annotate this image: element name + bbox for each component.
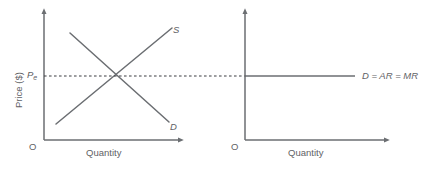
market-origin-label: O <box>29 142 36 152</box>
market-y-axis-label: Price ($) <box>14 72 24 108</box>
economics-diagram: Price ($) Pe S D O Quantity D = AR = MR … <box>0 0 444 171</box>
equilibrium-price-label: Pe <box>27 70 37 81</box>
market-x-axis-label: Quantity <box>86 148 121 158</box>
demand-curve <box>70 33 169 122</box>
equilibrium-price-subscript: e <box>33 74 37 81</box>
diagram-canvas <box>0 0 444 171</box>
firm-origin-label: O <box>231 142 238 152</box>
firm-demand-curve-label: D = AR = MR <box>362 71 418 81</box>
demand-curve-label: D <box>170 122 177 132</box>
firm-x-axis-label: Quantity <box>288 148 323 158</box>
supply-curve-label: S <box>173 25 179 35</box>
